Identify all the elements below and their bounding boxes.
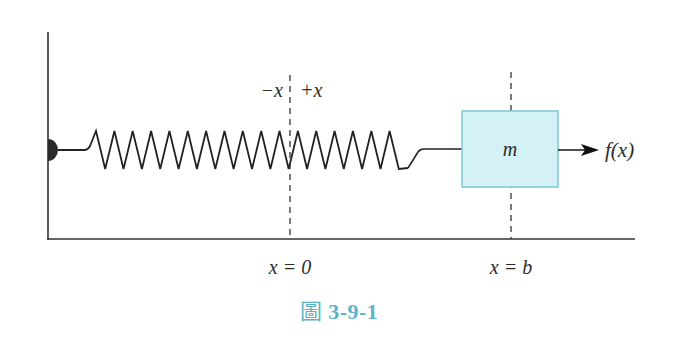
force-label: f(x) <box>605 138 634 162</box>
spring <box>58 131 408 169</box>
anchor-icon <box>48 139 58 161</box>
negative-direction-label: −x <box>261 79 283 101</box>
origin-label: x = 0 <box>268 256 311 278</box>
spring-mass-diagram: m f(x) −x +x x = 0 x = b <box>0 0 678 338</box>
positive-direction-label: +x <box>300 79 322 101</box>
mass-label: m <box>503 138 517 160</box>
caption-number: 3-9-1 <box>328 299 378 324</box>
spring-connector <box>408 149 462 168</box>
figure-caption: 圖3-9-1 <box>0 293 678 325</box>
b-position-label: x = b <box>489 256 532 278</box>
caption-prefix: 圖 <box>300 299 323 324</box>
